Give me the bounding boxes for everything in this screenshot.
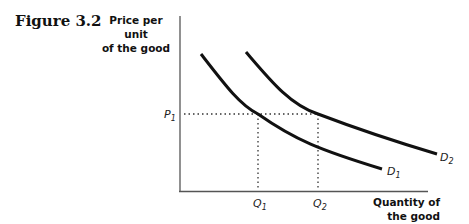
chart-canvas: P1 Q1 Q2 D1 D2	[0, 0, 469, 224]
q1-label: Q1	[253, 197, 267, 212]
demand-curve-d1	[201, 54, 382, 169]
q2-label: Q2	[313, 197, 327, 212]
d1-label: D1	[387, 165, 401, 180]
d2-label: D2	[440, 151, 454, 166]
demand-curve-d2	[246, 52, 437, 154]
p1-label: P1	[164, 108, 176, 123]
